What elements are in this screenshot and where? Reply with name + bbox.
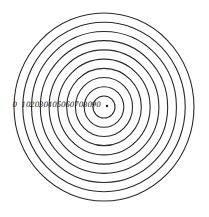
labels-group: 0102030405060708090	[13, 100, 102, 109]
ring-label-90: 90	[92, 100, 102, 109]
concentric-circle-diagram: 0102030405060708090	[0, 0, 209, 217]
ring-label-0: 0	[13, 100, 18, 109]
center-dot	[106, 105, 108, 107]
